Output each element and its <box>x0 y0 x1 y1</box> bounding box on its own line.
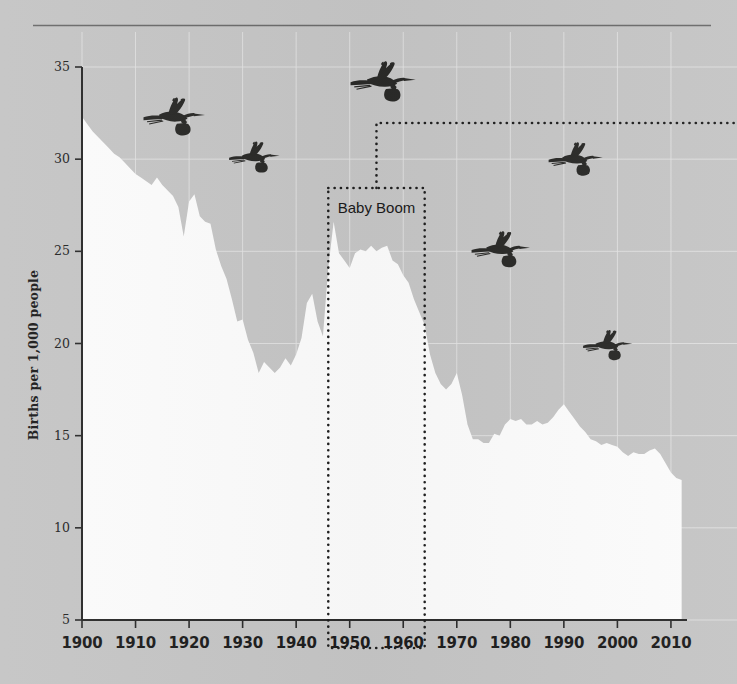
x-tick-label: 1970 <box>436 634 477 652</box>
y-tick-label: 35 <box>54 59 70 74</box>
x-tick-label: 1930 <box>222 634 263 652</box>
y-tick-label: 20 <box>54 336 70 351</box>
x-tick-label: 1980 <box>490 634 531 652</box>
x-tick-label: 2000 <box>597 634 638 652</box>
y-tick-label: 25 <box>54 243 70 258</box>
x-tick-label: 1940 <box>276 634 317 652</box>
chart-figure: 5101520253035190019101920193019401950196… <box>0 0 737 684</box>
x-tick-label: 1990 <box>543 634 584 652</box>
x-tick-label: 1900 <box>62 634 103 652</box>
y-tick-label: 10 <box>54 520 70 535</box>
x-tick-label: 1960 <box>383 634 424 652</box>
births-area-chart: 5101520253035190019101920193019401950196… <box>0 0 737 684</box>
y-tick-label: 30 <box>54 151 70 166</box>
y-tick-label: 5 <box>62 612 70 627</box>
y-tick-label: 15 <box>54 428 70 443</box>
x-tick-label: 1920 <box>169 634 210 652</box>
y-axis-title: Births per 1,000 people <box>26 270 41 440</box>
x-tick-label: 2010 <box>650 634 691 652</box>
x-tick-label: 1950 <box>329 634 370 652</box>
x-tick-label: 1910 <box>115 634 156 652</box>
baby-boom-label: Baby Boom <box>338 199 416 216</box>
